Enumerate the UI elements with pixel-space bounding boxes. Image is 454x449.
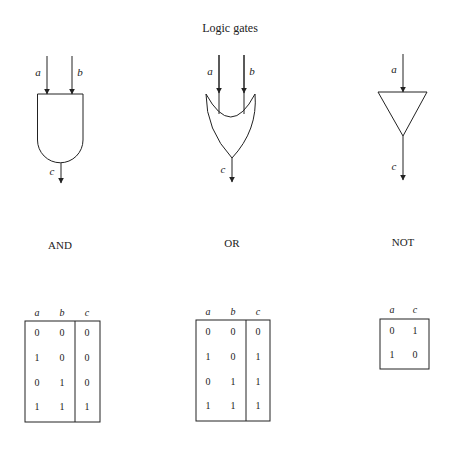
or-table-header-a: a [206,306,211,317]
and-gate-name: AND [48,239,72,251]
and-truth-table: abc000100010111 [25,307,100,422]
and-output-label: c [50,165,55,177]
and-gate: a b c [35,56,83,183]
logic-gates-diagram: Logic gates a b c a b c a c AND OR NOT a… [0,0,454,449]
or-input-a-label: a [207,65,213,77]
or-gate: a b c [206,55,255,182]
and-table-cell: 0 [85,327,90,338]
not-input-a-label: a [391,63,397,75]
or-table-cell: 1 [256,376,261,387]
and-table-cell: 0 [60,352,65,363]
not-gate: a c [378,54,427,180]
or-table-header-b: b [231,306,236,317]
and-table-cell: 0 [35,377,40,388]
or-gate-body [206,94,255,158]
and-table-cell: 1 [85,401,90,412]
or-table-cell: 0 [206,376,211,387]
and-gate-body [38,94,84,163]
or-table-cell: 1 [206,351,211,362]
not-output-label: c [392,160,397,172]
and-table-cell: 0 [35,327,40,338]
or-input-b-label: b [249,65,255,77]
or-truth-table: abc000101011111 [196,306,270,421]
not-table-cell: 0 [390,325,395,336]
and-table-cell: 1 [60,401,65,412]
and-input-b-label: b [77,66,83,78]
or-table-header-c: c [256,306,261,317]
or-table-cell: 1 [256,351,261,362]
or-table-cell: 0 [231,326,236,337]
and-table-cell: 1 [35,352,40,363]
not-table-border [380,319,429,369]
or-table-cell: 0 [206,326,211,337]
not-truth-table: ac0110 [380,304,429,369]
and-table-cell: 0 [60,327,65,338]
and-table-cell: 1 [35,401,40,412]
or-gate-name: OR [224,237,240,249]
or-table-cell: 0 [256,326,261,337]
and-table-header-a: a [35,307,40,318]
not-gate-name: NOT [392,236,415,248]
or-table-cell: 1 [206,400,211,411]
and-input-a-label: a [35,66,41,78]
not-table-cell: 0 [413,349,418,360]
not-table-header-c: c [413,304,418,315]
or-table-cell: 1 [231,400,236,411]
or-output-label: c [221,163,226,175]
not-gate-body [378,92,427,136]
or-table-cell: 0 [231,351,236,362]
or-table-cell: 1 [231,376,236,387]
and-table-cell: 0 [85,352,90,363]
and-table-header-c: c [85,307,90,318]
not-table-cell: 1 [413,325,418,336]
not-table-header-a: a [390,304,395,315]
or-table-cell: 1 [256,400,261,411]
and-table-cell: 1 [60,377,65,388]
and-table-cell: 0 [85,377,90,388]
not-table-cell: 1 [390,349,395,360]
diagram-title: Logic gates [202,21,258,35]
and-table-header-b: b [60,307,65,318]
